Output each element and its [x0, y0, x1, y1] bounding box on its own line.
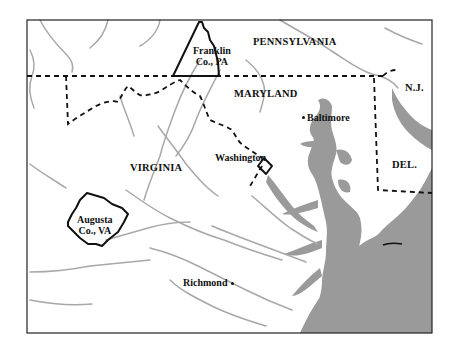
- county-label-franklin: Franklin Co., PA: [193, 45, 231, 67]
- county-label-augusta-line1: Augusta: [77, 214, 113, 225]
- wv-md-border: [66, 76, 262, 158]
- city-label-baltimore: Baltimore: [307, 113, 350, 123]
- state-label-pennsylvania: PENNSYLVANIA: [253, 37, 337, 48]
- state-borders: [27, 70, 432, 193]
- county-label-franklin-line1: Franklin: [193, 45, 231, 56]
- county-label-franklin-line2: Co., PA: [193, 56, 231, 67]
- water-bodies: [266, 88, 432, 333]
- state-label-delaware: DEL.: [392, 160, 417, 171]
- city-label-washington: Washington: [215, 153, 266, 163]
- state-label-maryland: MARYLAND: [234, 89, 298, 100]
- city-label-richmond: Richmond: [183, 278, 227, 288]
- county-outlines: [68, 22, 272, 246]
- state-label-new-jersey: N.J.: [405, 83, 424, 94]
- county-label-augusta: Augusta Co., VA: [77, 214, 113, 236]
- county-label-augusta-line2: Co., VA: [77, 225, 113, 236]
- city-marker-richmond: [231, 282, 234, 285]
- state-label-virginia: VIRGINIA: [130, 163, 182, 174]
- city-marker-baltimore: [302, 116, 305, 119]
